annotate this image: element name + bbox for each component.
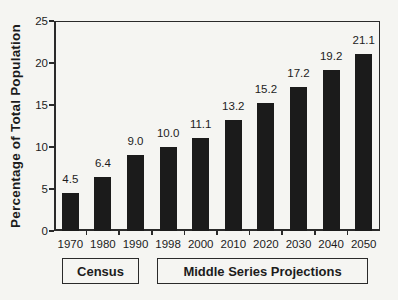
y-tick-mark [49,188,54,190]
bar-value-label: 6.4 [83,156,123,170]
y-tick-mark [49,62,54,64]
y-tick-label: 20 [18,56,48,70]
x-tick-mark [347,231,349,235]
bar-value-label: 11.1 [181,117,221,131]
x-tick-mark [216,231,218,235]
y-tick-label: 0 [18,224,48,238]
bar [355,54,372,231]
bar-value-label: 17.2 [279,66,319,80]
x-tick-mark [184,231,186,235]
census-group-label: Census [77,264,124,279]
bar-value-label: 21.1 [344,33,384,47]
y-tick-mark [49,20,54,22]
bar-value-label: 19.2 [311,49,351,63]
x-tick-mark [118,231,120,235]
bar [225,120,242,231]
bar [127,155,144,231]
x-tick-label: 2050 [344,237,384,251]
census-group-box: Census [62,258,139,284]
y-tick-label: 15 [18,98,48,112]
bar [62,193,79,231]
y-tick-mark [49,104,54,106]
y-tick-mark [49,146,54,148]
bar-value-label: 13.2 [213,99,253,113]
bar-value-label: 15.2 [246,82,286,96]
y-tick-label: 10 [18,140,48,154]
x-tick-mark [249,231,251,235]
bar [94,177,111,231]
bar [257,103,274,231]
x-tick-mark [281,231,283,235]
bar [160,147,177,231]
projections-group-box: Middle Series Projections [157,258,368,284]
y-axis-title: Percentage of Total Population [6,16,26,236]
bar-value-label: 4.5 [50,172,90,186]
bar [290,87,307,231]
x-tick-mark [314,231,316,235]
y-tick-label: 25 [18,14,48,28]
bar [192,138,209,231]
x-tick-mark [86,231,88,235]
x-tick-mark [151,231,153,235]
y-tick-mark [49,230,54,232]
y-tick-label: 5 [18,182,48,196]
projections-group-label: Middle Series Projections [183,264,341,279]
bar [323,70,340,231]
bar-chart-figure: Percentage of Total Population Census Mi… [0,0,398,300]
